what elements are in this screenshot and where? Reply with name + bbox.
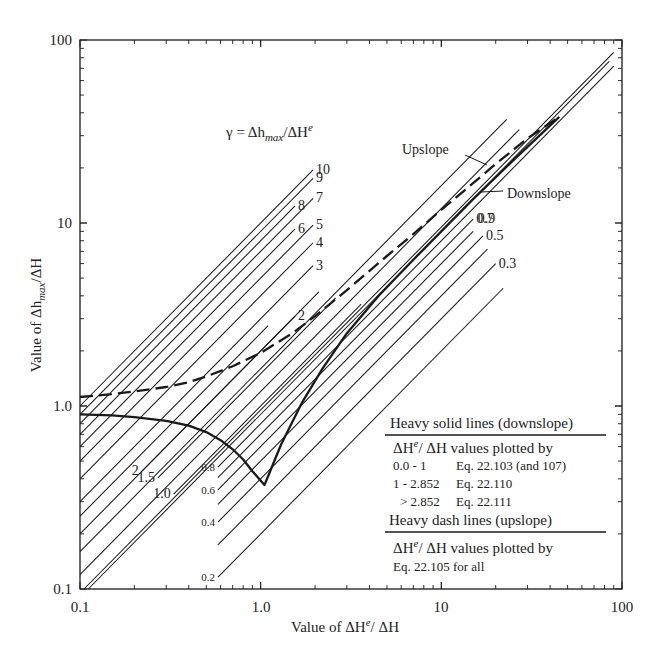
legend-dash-subtitle: ΔHe/ ΔH values plotted by [393,537,554,556]
y-tick-label: 0.1 [53,581,72,597]
legend: Heavy solid lines (downslope) ΔHe/ ΔH va… [385,415,606,574]
y-tick-label: 1.0 [53,398,72,414]
gamma-line [80,119,507,551]
x-tick-label: 100 [611,599,634,615]
gamma-line-label: 9 [316,170,323,185]
gamma-line-label: 0.7 [476,211,494,226]
gamma-line [80,206,295,424]
legend-row-range: > 2.852 [400,494,440,509]
gamma-line-label: 0.4 [201,516,215,528]
gamma-line-label: 7 [316,190,323,205]
gamma-line-label: 6 [298,221,305,236]
gamma-line-label: 1.0 [153,486,171,501]
legend-dash-row: Eq. 22.105 for all [393,559,485,574]
gamma-line-label: 4 [316,235,323,250]
gamma-line-label: 0.6 [201,484,215,496]
gamma-line [80,170,313,406]
gamma-line-label: 8 [298,198,305,213]
gamma-line [218,264,496,545]
legend-row-range: 1 - 2.852 [393,476,440,491]
y-tick-label: 100 [50,32,73,48]
x-tick-label: 0.1 [71,599,90,615]
gamma-line [80,229,295,447]
legend-row-eq: Eq. 22.110 [456,476,512,491]
y-tick-label: 10 [57,215,72,231]
gamma-line [218,249,488,522]
upslope-annotation: Upslope [402,142,449,157]
x-tick-label: 10 [434,599,449,615]
legend-solid-title: Heavy solid lines (downslope) [390,415,573,432]
upslope-pointer [465,155,487,165]
gamma-line [218,219,473,478]
gamma-line-label: 3 [316,258,323,273]
legend-row-range: 0.0 - 1 [393,458,427,473]
x-tick-label: 1.0 [252,599,271,615]
gamma-line-label: 0.3 [499,256,517,271]
gamma-definition-label: γ = Δhmax/ΔHe [225,121,313,143]
gamma-line [80,130,519,575]
gamma-line-label: 0.5 [486,228,504,243]
gamma-line [80,198,313,434]
legend-dash-title: Heavy dash lines (upslope) [389,512,552,529]
gamma-line [80,225,313,461]
gamma-line [218,236,483,504]
gamma-line [218,288,503,577]
gamma-line [218,66,614,467]
gamma-line [80,326,268,517]
downslope-annotation: Downslope [507,186,571,201]
gamma-line [88,61,609,589]
downslope-pointer [481,191,503,192]
gamma-line-label: 1.5 [137,470,155,485]
x-axis-title: Value of ΔHe/ ΔH [291,616,399,635]
gamma-line-label: 0.8 [201,461,215,473]
legend-row-eq: Eq. 22.111 [456,494,512,509]
log-log-chart: 0.1 1.0 10 100 0.1 1.0 10 100 Value of Δ… [0,0,649,651]
legend-solid-subtitle: ΔHe/ ΔH values plotted by [393,437,554,456]
legend-row-eq: Eq. 22.103 (and 107) [456,458,566,473]
plot-lines [80,52,614,589]
gamma-line-label: 2 [298,308,305,323]
y-axis-title: Value of Δhmax/ΔH [28,258,47,372]
gamma-line-label: 5 [316,217,323,232]
gamma-line [80,266,313,502]
gamma-line [158,298,336,478]
gamma-line-label: 0.2 [201,571,215,583]
